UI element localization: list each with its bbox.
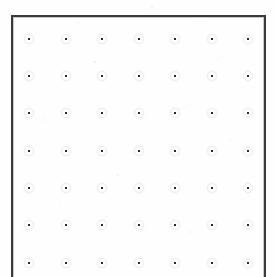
grid-dot (138, 262, 141, 265)
grid-dot (65, 75, 68, 78)
grid-dot (211, 38, 214, 41)
grid-dot (247, 112, 250, 115)
grid-dot (174, 262, 177, 265)
page-canvas (0, 0, 275, 277)
grid-dot (28, 224, 31, 227)
grid-dot (28, 75, 31, 78)
grid-dot (65, 224, 68, 227)
grid-dot (211, 75, 214, 78)
grid-dot (28, 262, 31, 265)
grid-dot (65, 150, 68, 153)
grid-dot (101, 112, 104, 115)
grid-dot (28, 187, 31, 190)
grid-dot (138, 187, 141, 190)
grid-dot (247, 224, 250, 227)
grid-dot (174, 224, 177, 227)
grid-dot (138, 224, 141, 227)
grid-dot (101, 75, 104, 78)
grid-dot (247, 75, 250, 78)
grid-dot (28, 38, 31, 41)
grid-dot (174, 75, 177, 78)
grid-dot (101, 38, 104, 41)
grid-dot (101, 224, 104, 227)
dot-grid (0, 0, 275, 277)
grid-dot (65, 112, 68, 115)
grid-dot (211, 150, 214, 153)
grid-dot (101, 262, 104, 265)
grid-dot (138, 112, 141, 115)
grid-dot (138, 38, 141, 41)
grid-dot (138, 75, 141, 78)
grid-dot (211, 187, 214, 190)
grid-dot (65, 38, 68, 41)
grid-dot (174, 112, 177, 115)
grid-dot (174, 187, 177, 190)
grid-dot (138, 150, 141, 153)
grid-dot (211, 112, 214, 115)
grid-dot (101, 187, 104, 190)
grid-dot (65, 187, 68, 190)
grid-dot (65, 262, 68, 265)
grid-dot (174, 150, 177, 153)
grid-dot (28, 112, 31, 115)
grid-dot (28, 150, 31, 153)
grid-dot (247, 262, 250, 265)
grid-dot (101, 150, 104, 153)
grid-dot (211, 224, 214, 227)
grid-dot (174, 38, 177, 41)
grid-dot (247, 38, 250, 41)
grid-dot (247, 150, 250, 153)
grid-dot (211, 262, 214, 265)
grid-dot (247, 187, 250, 190)
